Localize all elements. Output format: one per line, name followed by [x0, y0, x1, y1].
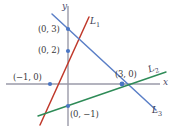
line-label-L1: L1 [90, 17, 100, 28]
point-0-2 [66, 49, 70, 53]
point-0-3 [66, 27, 70, 31]
line-label-L1-sub: 1 [96, 21, 100, 29]
point-3-0 [120, 82, 125, 87]
y-axis-label: y [62, 2, 67, 11]
coordinate-plane-figure: y x (0, 3) (0, 2) (−1, 0) (3, 0) (0, −1)… [0, 0, 173, 128]
point-label-3-0: (3, 0) [115, 70, 137, 79]
point-label-minus1-0: (−1, 0) [13, 73, 42, 82]
line-label-L3-sub: 3 [158, 110, 162, 118]
line-label-L3: L3 [152, 106, 162, 117]
point-label-0-2: (0, 2) [38, 46, 60, 55]
line-L2 [38, 72, 166, 116]
point-minus1-0 [48, 82, 52, 86]
x-axis-label: x [163, 78, 168, 87]
point-0-minus1 [66, 104, 70, 108]
point-label-0-3: (0, 3) [38, 25, 60, 34]
point-label-0-minus1: (0, −1) [70, 110, 99, 119]
